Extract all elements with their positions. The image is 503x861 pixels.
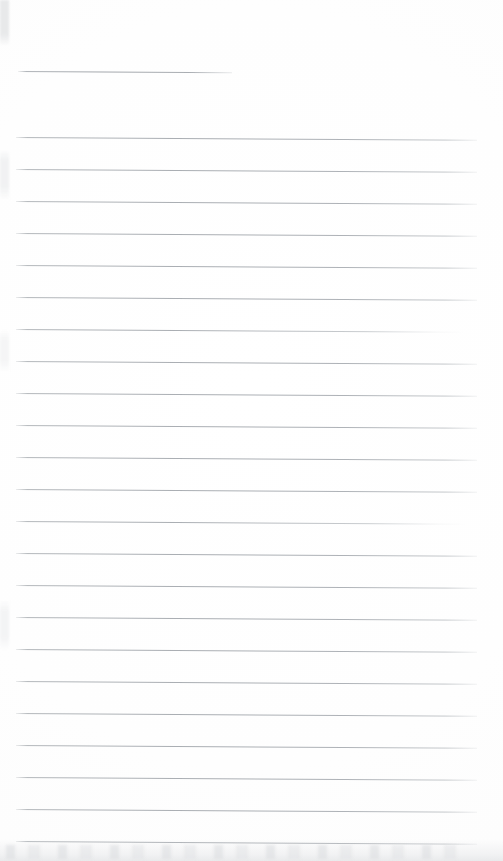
ruled-line-ink (16, 809, 477, 813)
ruled-line-ink (16, 489, 477, 493)
ruled-line (18, 71, 232, 73)
ruled-line (16, 809, 477, 813)
ruled-line-ink (16, 585, 477, 589)
ruled-line (16, 553, 477, 557)
ruled-line-ink (16, 329, 464, 333)
ruled-line-ink (16, 297, 477, 301)
ruled-line (16, 361, 477, 365)
paper-background (0, 0, 503, 861)
ruled-line (16, 649, 477, 653)
ruled-line (16, 457, 477, 461)
ruled-line (16, 201, 477, 205)
scanned-page (0, 0, 503, 861)
ruled-line (16, 617, 477, 621)
ruled-line-ink (16, 553, 477, 557)
ruled-line-ink (16, 393, 477, 397)
ruled-line (16, 425, 477, 429)
ruled-line-ink (16, 617, 477, 621)
ruled-line (16, 329, 464, 333)
ruled-line (16, 841, 477, 845)
ruled-line-ink (16, 265, 477, 269)
ruled-line (16, 777, 477, 781)
left-edge-scan-artifact (0, 0, 9, 861)
ruled-line-ink (16, 137, 477, 141)
ruled-line (16, 585, 477, 589)
ruled-line-ink (16, 777, 477, 781)
ruled-line (16, 137, 477, 141)
ruled-line-ink (16, 457, 477, 461)
ruled-line-ink (18, 71, 232, 73)
ruled-line-ink (16, 841, 477, 845)
ruled-line (16, 233, 477, 237)
ruled-line-ink (16, 361, 477, 365)
ruled-line (16, 521, 466, 525)
bottom-edge-scan-smudge (0, 839, 503, 861)
ruled-line-ink (16, 649, 477, 653)
ruled-line-ink (16, 201, 477, 205)
ruled-line-ink (16, 169, 477, 173)
ruled-line-ink (16, 233, 477, 237)
ruled-line-ink (16, 713, 477, 717)
ruled-line (16, 265, 477, 269)
ruled-line (16, 169, 477, 173)
ruled-line (16, 489, 477, 493)
ruled-line-ink (16, 745, 477, 749)
ruled-line (16, 393, 477, 397)
ruled-line (16, 681, 477, 685)
ruled-line (16, 745, 477, 749)
ruled-line (16, 297, 477, 301)
ruled-line-ink (16, 425, 477, 429)
ruled-line-ink (16, 521, 466, 525)
ruled-line (16, 713, 477, 717)
ruled-line-ink (16, 681, 477, 685)
